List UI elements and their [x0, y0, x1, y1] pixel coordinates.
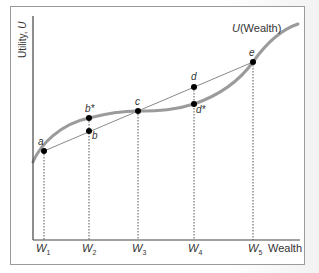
- utility-curve: [33, 24, 298, 162]
- tick-w4: W4: [188, 242, 202, 256]
- label-d: d: [191, 71, 197, 82]
- label-e: e: [249, 47, 255, 58]
- utility-chart: a b* b c d d* e U(Wealth) Utility, U W1 …: [0, 0, 319, 273]
- tick-w1: W1: [36, 242, 50, 256]
- label-d-star: d*: [196, 104, 207, 115]
- tick-w5: W5: [248, 242, 262, 256]
- label-a: a: [38, 136, 44, 147]
- axes: [33, 16, 300, 240]
- point-d: [191, 84, 197, 90]
- point-b-star: [86, 115, 92, 121]
- label-b: b: [92, 130, 98, 141]
- tick-w2: W2: [82, 242, 96, 256]
- label-c: c: [135, 96, 140, 107]
- point-a: [41, 148, 47, 154]
- curve-label: U(Wealth): [232, 22, 281, 34]
- label-b-star: b*: [85, 103, 96, 114]
- y-axis-label: Utility, U: [17, 21, 28, 58]
- chords: [44, 62, 253, 151]
- point-c: [135, 108, 141, 114]
- point-e: [250, 59, 256, 65]
- guide-lines: [44, 62, 253, 240]
- x-axis-label: Wealth: [268, 242, 302, 254]
- tick-w3: W3: [132, 242, 146, 256]
